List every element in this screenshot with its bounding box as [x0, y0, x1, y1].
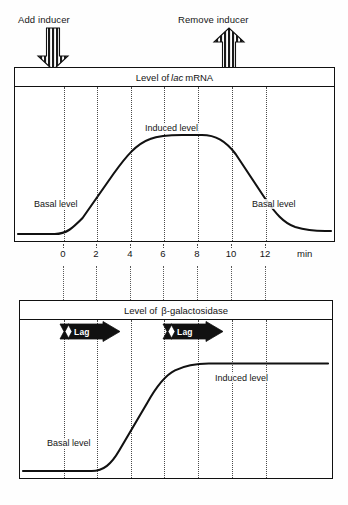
panel-beta-galactosidase-title-prefix: Level of: [124, 305, 157, 316]
panel-lac-mrna-title-italic: lac: [169, 72, 185, 83]
connector-t8: [197, 266, 198, 302]
connector-t2: [96, 266, 97, 302]
up-striped-arrow-icon: [212, 27, 246, 71]
plot-area-lac-mrna: Basal level Induced level Basal level: [15, 87, 334, 241]
x-axis-minutes: 0 2 4 6 8 10 12 min: [14, 244, 335, 266]
panel-beta-galactosidase-title: Level of β-galactosidase: [20, 301, 332, 320]
panel-lac-mrna-title: Level of lac mRNA: [15, 68, 334, 87]
connector-t6: [163, 266, 164, 302]
panel-lac-mrna-title-suffix: mRNA: [185, 72, 213, 83]
lag-arrow-deinduction-icon: Lag: [162, 321, 224, 342]
panel-lac-mrna: Level of lac mRNA Basal level Induced le…: [14, 67, 335, 242]
axis-unit-label: min: [297, 248, 312, 259]
tick-label-8: 8: [194, 248, 199, 259]
connector-t10: [231, 266, 232, 302]
connector-t4: [130, 266, 131, 302]
connector-t12: [265, 266, 266, 302]
tick-label-12: 12: [260, 248, 271, 259]
remove-inducer-label: Remove inducer: [178, 14, 249, 25]
panel-lac-mrna-title-prefix: Level of: [136, 72, 169, 83]
figure-root: Add inducer Remove inducer: [0, 0, 348, 505]
connector-t0: [63, 266, 64, 302]
tick-label-2: 2: [93, 248, 98, 259]
lag-arrow-induction-icon: Lag: [59, 321, 121, 342]
label-basal-level-right: Basal level: [251, 199, 297, 209]
curve-beta-galactosidase: [20, 320, 332, 478]
tick-label-0: 0: [60, 248, 65, 259]
tick-label-4: 4: [127, 248, 132, 259]
label-basal-level-left: Basal level: [33, 199, 79, 209]
label-induced-level: Induced level: [144, 123, 199, 133]
label-bgal-basal-level: Basal level: [46, 438, 92, 448]
label-bgal-induced-level: Induced level: [214, 373, 269, 383]
tick-label-6: 6: [160, 248, 165, 259]
curve-lac-mrna: [15, 87, 334, 241]
plot-area-beta-galactosidase: Basal level Induced level: [20, 320, 332, 478]
down-striped-arrow-icon: [36, 27, 70, 71]
add-inducer-label: Add inducer: [18, 14, 70, 25]
panel-beta-galactosidase-title-suffix: β-galactosidase: [161, 305, 228, 316]
tick-label-10: 10: [226, 248, 237, 259]
